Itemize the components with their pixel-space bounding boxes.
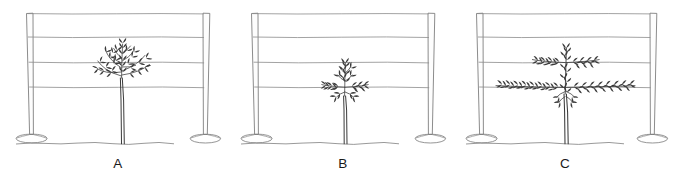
figure-canvas: A xyxy=(0,0,679,180)
ground-line-c xyxy=(466,142,624,144)
wire-second-b xyxy=(254,62,430,63)
panel-a: A xyxy=(16,13,221,171)
post-base-right-b xyxy=(415,134,445,143)
trellis-post-left-a xyxy=(16,13,47,143)
post-base-right-c xyxy=(637,134,667,143)
trellis-post-right-a xyxy=(190,13,221,143)
panel-label-a: A xyxy=(113,156,122,171)
panel-b: B xyxy=(241,13,446,171)
wire-second-a xyxy=(29,62,205,63)
trellis-post-right-c xyxy=(637,13,668,143)
trellis-post-left-b xyxy=(241,13,272,143)
trellis-post-left-c xyxy=(466,13,497,143)
trellis-training-figure: A xyxy=(0,0,679,180)
vine-plant-b xyxy=(321,58,370,144)
panel-label-c: C xyxy=(560,156,570,171)
panel-c: C xyxy=(466,13,668,171)
ground-line-a xyxy=(16,142,174,144)
post-base-right-a xyxy=(190,134,220,143)
vine-plant-a xyxy=(92,38,152,144)
post-base-left-b xyxy=(241,134,272,143)
vine-plant-c xyxy=(496,43,636,144)
trellis-wires-a xyxy=(27,14,204,88)
post-base-left-c xyxy=(466,134,497,143)
trellis-post-right-b xyxy=(415,13,446,143)
wire-third-b xyxy=(253,37,429,38)
trellis-wires-b xyxy=(252,14,429,88)
ground-line-b xyxy=(241,142,399,144)
wire-fruiting-a xyxy=(29,87,204,88)
post-base-left-a xyxy=(16,134,47,143)
wire-third-a xyxy=(28,37,204,38)
trellis-wires-c xyxy=(477,14,651,88)
panel-label-b: B xyxy=(338,156,347,171)
wire-third-c xyxy=(478,37,651,38)
